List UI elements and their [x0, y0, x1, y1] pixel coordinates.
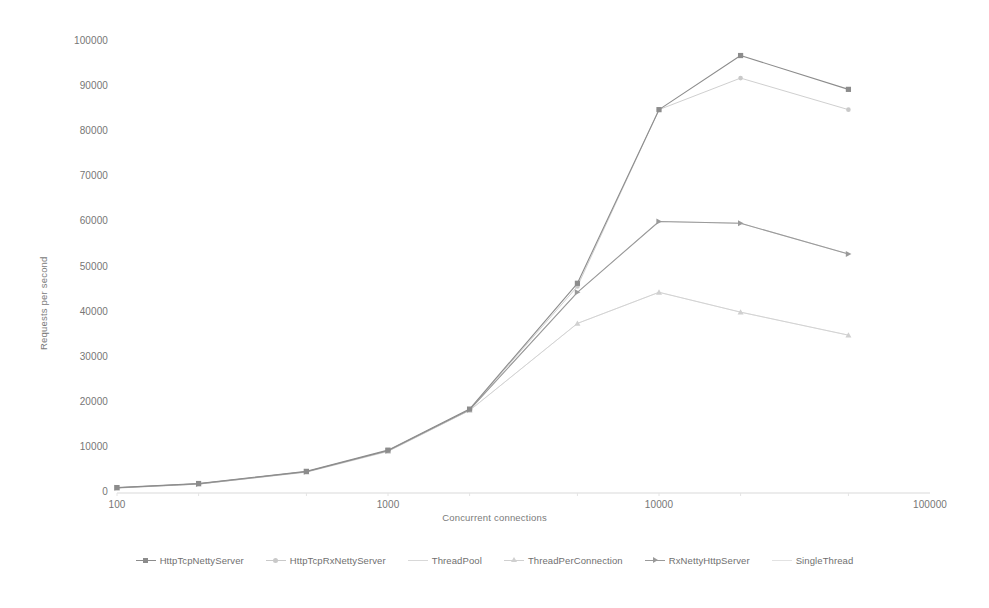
x-axis-tick-label: 100000	[890, 499, 970, 510]
legend-item-label: HttpTcpNettyServer	[160, 555, 244, 566]
legend-item-label: HttpTcpRxNettyServer	[290, 555, 386, 566]
legend-marker-icon	[504, 556, 524, 565]
legend-marker-icon	[408, 556, 428, 565]
y-axis-tick-label: 100000	[50, 35, 108, 46]
y-axis-tick-label: 90000	[50, 80, 108, 91]
x-axis-tick-label: 1000	[348, 499, 428, 510]
y-axis-tick-label: 50000	[50, 261, 108, 272]
legend-item[interactable]: HttpTcpNettyServer	[125, 555, 255, 566]
chart-container: Requests per second Concurrent connectio…	[0, 0, 989, 608]
legend-item[interactable]: SingleThread	[761, 555, 865, 566]
y-axis-tick-label: 0	[50, 486, 108, 497]
x-axis-tick-label: 10000	[619, 499, 699, 510]
y-axis-tick-label: 80000	[50, 125, 108, 136]
legend-marker-icon	[645, 556, 665, 565]
legend-marker-icon	[136, 556, 156, 565]
legend-item-label: ThreadPool	[432, 555, 482, 566]
y-axis-tick-label: 60000	[50, 215, 108, 226]
legend-item-label: RxNettyHttpServer	[669, 555, 750, 566]
legend-item[interactable]: RxNettyHttpServer	[634, 555, 761, 566]
x-axis-tick-label: 100	[77, 499, 157, 510]
legend-item-label: SingleThread	[796, 555, 854, 566]
x-axis-title: Concurrent connections	[0, 512, 989, 523]
y-axis-title: Requests per second	[38, 50, 49, 350]
legend-item[interactable]: ThreadPool	[397, 555, 493, 566]
legend-item[interactable]: HttpTcpRxNettyServer	[255, 555, 397, 566]
chart-legend: HttpTcpNettyServerHttpTcpRxNettyServerTh…	[0, 555, 989, 566]
y-axis-tick-label: 40000	[50, 306, 108, 317]
legend-item[interactable]: ThreadPerConnection	[493, 555, 634, 566]
y-axis-tick-label: 20000	[50, 396, 108, 407]
y-axis-tick-label: 70000	[50, 170, 108, 181]
y-axis-tick-label: 30000	[50, 351, 108, 362]
legend-item-label: ThreadPerConnection	[528, 555, 623, 566]
legend-marker-icon	[772, 556, 792, 565]
legend-marker-icon	[266, 556, 286, 565]
y-axis-tick-label: 10000	[50, 441, 108, 452]
